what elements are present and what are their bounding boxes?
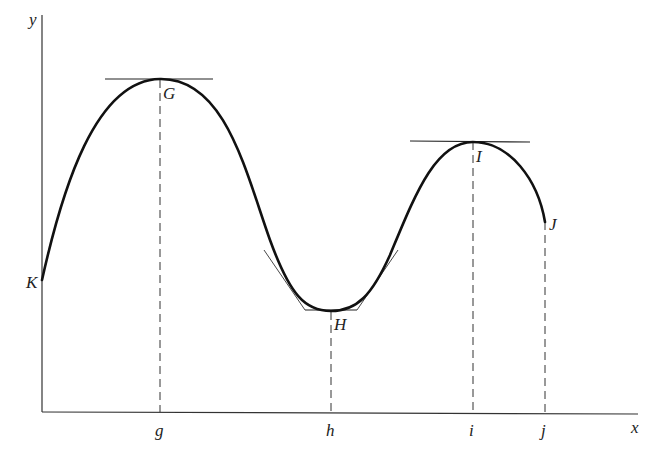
tick-label-g: g [155,422,164,439]
diagram-canvas [0,0,664,457]
tick-label-i: i [469,422,474,439]
curve [42,79,545,311]
x-axis [42,412,638,414]
tangent-left-of-H [264,250,305,310]
y-axis-label: y [29,11,37,28]
point-label-I: I [476,148,482,165]
point-label-G: G [163,85,175,102]
x-axis-label: x [631,419,639,436]
point-label-H: H [334,316,346,333]
point-label-K: K [26,274,37,291]
point-label-J: J [549,216,557,233]
tick-label-h: h [326,422,335,439]
tick-label-j: j [541,422,546,439]
